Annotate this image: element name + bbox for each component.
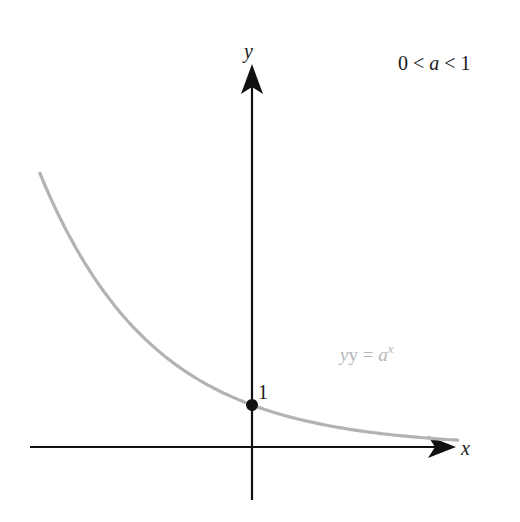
y-intercept-point (246, 399, 258, 411)
exponential-graph: x y 1 yy = ax 0 < a < 1 (0, 0, 520, 522)
equation-label: yy = ax (338, 341, 394, 365)
equation-equals: y = (348, 344, 378, 365)
y-intercept-label: 1 (258, 381, 268, 403)
equation-exponent: x (387, 341, 394, 356)
equation-y: y (338, 344, 349, 365)
condition-variable: a (429, 52, 439, 74)
condition-left: 0 < (398, 52, 429, 74)
condition-label: 0 < a < 1 (398, 52, 471, 74)
y-axis-label: y (242, 40, 253, 63)
x-axis-label: x (460, 437, 470, 459)
condition-right: < 1 (439, 52, 470, 74)
equation-base: a (378, 344, 388, 365)
